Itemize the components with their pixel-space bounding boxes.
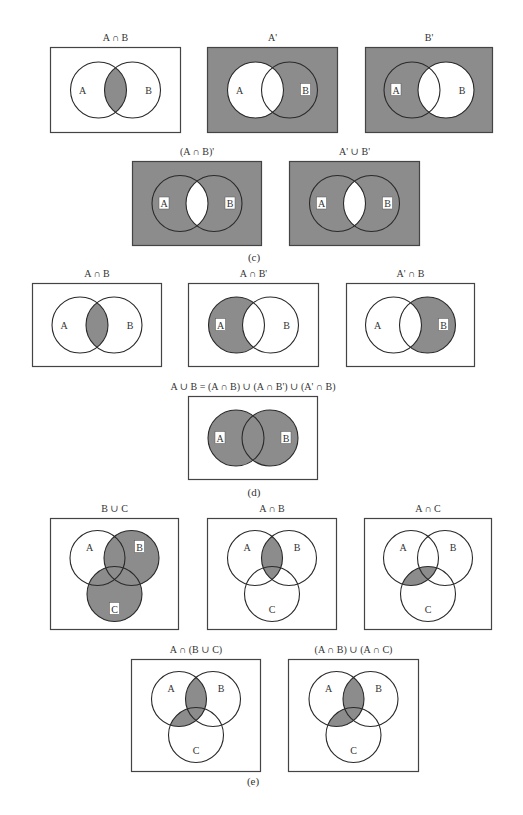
set-label-b: B bbox=[450, 542, 457, 553]
diagram-title: A ∩ B bbox=[84, 268, 110, 279]
set-label-b: B bbox=[227, 198, 234, 209]
set-label-c: C bbox=[269, 604, 276, 615]
set-label-b: B bbox=[283, 433, 290, 444]
venn-diagram: AB bbox=[188, 283, 319, 367]
venn-diagram: AB bbox=[50, 47, 181, 133]
diagram-title: A ∩ B' bbox=[240, 268, 267, 279]
set-label-b: B bbox=[136, 542, 143, 553]
set-label-a: A bbox=[79, 85, 87, 96]
set-label-b: B bbox=[459, 85, 466, 96]
set-label-b: B bbox=[440, 320, 447, 331]
diagram-title: A ∩ B bbox=[259, 503, 285, 514]
set-label-b: B bbox=[283, 320, 290, 331]
set-label-b: B bbox=[384, 198, 391, 209]
set-label-a: A bbox=[167, 683, 175, 694]
venn-diagram: ABC bbox=[131, 659, 261, 772]
caption-e: (e) bbox=[247, 775, 259, 787]
venn-diagram: AB bbox=[289, 161, 420, 246]
venn-diagram: ABC bbox=[50, 518, 179, 630]
set-label-a: A bbox=[216, 433, 224, 444]
diagram-title: A ∩ B bbox=[103, 32, 129, 43]
diagram-title: A' bbox=[268, 32, 277, 43]
set-label-b: B bbox=[302, 85, 309, 96]
venn-diagram: ABC bbox=[207, 518, 337, 630]
set-label-c: C bbox=[425, 604, 432, 615]
set-label-a: A bbox=[374, 320, 382, 331]
set-label-a: A bbox=[325, 683, 333, 694]
diagram-title: B ∪ C bbox=[101, 503, 128, 514]
set-label-b: B bbox=[294, 542, 301, 553]
set-label-a: A bbox=[243, 542, 251, 553]
venn-diagram: AB bbox=[188, 396, 318, 480]
venn-diagram: AB bbox=[207, 47, 338, 133]
venn-diagram: ABC bbox=[364, 518, 492, 630]
set-label-a: A bbox=[318, 198, 326, 209]
set-label-b: B bbox=[375, 683, 382, 694]
set-label-a: A bbox=[86, 542, 94, 553]
diagram-title: A ∩ (B ∪ C) bbox=[170, 644, 222, 655]
set-label-b: B bbox=[145, 85, 152, 96]
set-label-c: C bbox=[111, 604, 118, 615]
set-label-c: C bbox=[193, 745, 200, 756]
set-label-a: A bbox=[217, 320, 225, 331]
set-label-b: B bbox=[218, 683, 225, 694]
diagram-title: A' ∩ B bbox=[397, 268, 425, 279]
venn-diagram: AB bbox=[346, 283, 475, 367]
set-label-c: C bbox=[350, 745, 357, 756]
set-label-a: A bbox=[392, 85, 400, 96]
venn-diagram: AB bbox=[132, 161, 262, 246]
set-label-a: A bbox=[236, 85, 244, 96]
diagram-title: A ∩ C bbox=[415, 503, 441, 514]
diagram-title: (A ∩ B)' bbox=[180, 146, 214, 157]
diagram-title: (A ∩ B) ∪ (A ∩ C) bbox=[315, 644, 393, 655]
diagram-title: A' ∪ B' bbox=[339, 146, 370, 157]
caption-c: (c) bbox=[248, 251, 260, 263]
set-label-a: A bbox=[160, 198, 168, 209]
venn-diagram: AB bbox=[32, 283, 162, 367]
diagram-title: B' bbox=[425, 32, 433, 43]
venn-diagram: AB bbox=[365, 47, 493, 133]
set-label-b: B bbox=[127, 320, 134, 331]
caption-d: (d) bbox=[248, 486, 261, 498]
venn-diagram: ABC bbox=[288, 659, 419, 772]
set-label-a: A bbox=[399, 542, 407, 553]
set-label-a: A bbox=[60, 320, 68, 331]
diagram-title: A ∪ B = (A ∩ B) ∪ (A ∩ B') ∪ (A' ∩ B) bbox=[171, 381, 336, 392]
